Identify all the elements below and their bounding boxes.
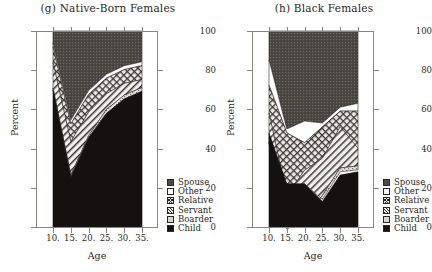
tick-y-0-g [31,227,36,228]
axis-bottom-g [36,227,158,228]
axis-left-g [36,31,37,228]
legend-swatch-relative-icon [383,197,390,204]
tick-yr-40-h [374,149,379,150]
tick-xt-35-h [358,27,359,32]
tick-xt-20-g [89,27,90,32]
legend-h: Spouse Other Relative Servant Boarder Ch… [383,178,429,233]
tick-y-0-h [247,227,252,228]
legend-swatch-spouse-icon [383,179,390,186]
tick-y-20-h [247,188,252,189]
tick-yr-20-g [158,188,163,189]
xlabel-35-h: 35. [346,234,370,243]
tick-y-100-g [31,31,36,32]
legend-swatch-child-icon [167,225,174,232]
axis-bottom-h [252,227,374,228]
tick-y-40-g [31,149,36,150]
legend-item-child-h[interactable]: Child [383,224,429,233]
tick-xt-25-g [106,27,107,32]
legend-swatch-boarder-icon [167,216,174,223]
axis-label-x-h: Age [252,250,374,261]
ylabel-80-g: 80 [188,66,216,75]
legend-swatch-child-icon [383,225,390,232]
axis-top-h [252,31,374,32]
tick-yr-60-h [374,109,379,110]
legend-swatch-other-icon [167,188,174,195]
tick-xt-20-h [305,27,306,32]
tick-y-20-g [31,188,36,189]
ylabel-100-h: 100 [404,27,432,36]
legend-label-child: Child [394,224,417,233]
legend-swatch-other-icon [383,188,390,195]
tick-y-60-h [247,109,252,110]
axis-label-x-g: Age [36,250,158,261]
legend-swatch-servant-icon [383,207,390,214]
legend-g: Spouse Other Relative Servant Boarder Ch… [167,178,213,233]
legend-swatch-boarder-icon [383,216,390,223]
ylabel-40-h: 40 [404,145,432,154]
tick-xt-10-h [269,27,270,32]
tick-y-40-h [247,149,252,150]
ylabel-60-h: 60 [404,105,432,114]
tick-yr-20-h [374,188,379,189]
legend-swatch-relative-icon [167,197,174,204]
legend-item-child-g[interactable]: Child [167,224,213,233]
axis-left-h [252,31,253,228]
tick-yr-60-g [158,109,163,110]
tick-xt-15-g [71,27,72,32]
chart-panel-black-females: (h) Black Females [216,0,432,272]
tick-y-60-g [31,109,36,110]
ylabel-40-g: 40 [188,145,216,154]
ylabel-100-g: 100 [188,27,216,36]
axis-label-y-g: Percent [9,88,20,148]
axis-right-g [157,31,158,228]
axis-label-y-h: Percent [225,88,236,148]
tick-xt-25-h [322,27,323,32]
tick-yr-80-h [374,70,379,71]
axis-top-g [36,31,158,32]
chart-panel-native-born-females: (g) Native-Born Females [0,0,216,272]
tick-xt-15-h [287,27,288,32]
ylabel-60-g: 60 [188,105,216,114]
tick-xt-30-h [340,27,341,32]
tick-xt-35-g [142,27,143,32]
tick-yr-80-g [158,70,163,71]
xlabel-35-g: 35. [130,234,154,243]
legend-label-child: Child [178,224,201,233]
tick-y-100-h [247,31,252,32]
axis-right-h [373,31,374,228]
tick-y-80-g [31,70,36,71]
legend-swatch-spouse-icon [167,179,174,186]
tick-y-80-h [247,70,252,71]
tick-xt-10-g [53,27,54,32]
legend-swatch-servant-icon [167,207,174,214]
tick-yr-40-g [158,149,163,150]
tick-xt-30-g [124,27,125,32]
ylabel-80-h: 80 [404,66,432,75]
